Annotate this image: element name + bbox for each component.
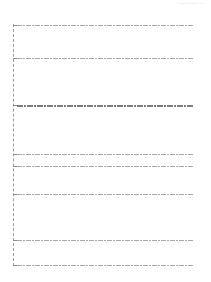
row-text: illegible row text bbox=[17, 193, 193, 196]
row-text: illegible row text bbox=[17, 24, 193, 27]
row-text: illegible row text bbox=[17, 57, 193, 60]
tree-row: illegible row text bbox=[13, 264, 193, 268]
row-text: illegible row text bbox=[17, 153, 193, 156]
row-text: illegible row text bbox=[17, 104, 193, 107]
tree-row: illegible row text bbox=[13, 165, 193, 169]
page-header: illegible header text bbox=[10, 1, 205, 6]
tree-row: illegible row text bbox=[13, 57, 193, 61]
row-text: illegible row text bbox=[17, 264, 193, 267]
tree-row: illegible row text bbox=[13, 153, 193, 157]
tree-row: illegible row text bbox=[13, 104, 193, 108]
header-text: illegible header text bbox=[179, 1, 205, 6]
row-text: illegible row text bbox=[17, 239, 193, 242]
row-text: illegible row text bbox=[17, 165, 193, 168]
tree-row: illegible row text bbox=[13, 193, 193, 197]
tree-row: illegible row text bbox=[13, 239, 193, 243]
tree-row: illegible row text bbox=[13, 24, 193, 28]
